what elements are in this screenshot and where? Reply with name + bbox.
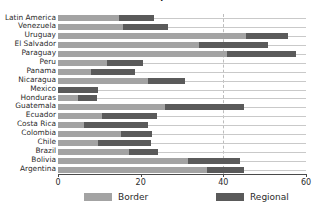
bar-row <box>58 103 306 112</box>
bar-row <box>58 165 306 174</box>
bar-segment-regional <box>227 51 296 57</box>
bar-segment-border <box>58 33 246 39</box>
bar-segment-border <box>58 131 121 137</box>
bar-row <box>58 41 306 50</box>
bar-segment-regional <box>58 87 98 93</box>
bar-row <box>58 14 306 23</box>
bar-segment-border <box>58 167 207 173</box>
bar-segment-border <box>58 113 102 119</box>
legend-label: Border <box>118 192 148 202</box>
bar-segment-regional <box>129 149 158 155</box>
legend-label: Regional <box>250 192 289 202</box>
bar-segment-regional <box>148 78 185 84</box>
bar-segment-border <box>58 122 84 128</box>
x-axis-tick-label: 20 <box>136 178 146 187</box>
plot-area <box>58 14 306 174</box>
bar-segment-regional <box>84 122 148 128</box>
bar-segment-border <box>58 42 199 48</box>
bar-segment-regional <box>119 15 154 21</box>
bar-segment-regional <box>207 167 244 173</box>
x-axis-tick <box>223 174 224 177</box>
bar-row <box>58 85 306 94</box>
x-axis-tick <box>58 174 59 177</box>
bar-segment-border <box>58 24 123 30</box>
x-axis-line <box>58 174 306 175</box>
legend-swatch-icon <box>216 193 244 201</box>
x-axis-tick <box>141 174 142 177</box>
bar-row <box>58 94 306 103</box>
legend-item-regional[interactable]: Regional <box>216 192 289 202</box>
bar-row <box>58 67 306 76</box>
bar-segment-regional <box>98 140 151 146</box>
bar-segment-border <box>58 78 148 84</box>
bar-segment-regional <box>78 95 97 101</box>
chart-title: of Exports <box>0 0 322 1</box>
bar-row <box>58 130 306 139</box>
bar-segment-regional <box>188 158 240 164</box>
bar-segment-border <box>58 158 188 164</box>
bar-segment-regional <box>246 33 288 39</box>
bar-segment-border <box>58 51 227 57</box>
bar-segment-border <box>58 69 91 75</box>
bar-segment-regional <box>102 113 157 119</box>
bar-segment-border <box>58 95 78 101</box>
x-axis-tick-label: 0 <box>55 178 60 187</box>
stacked-bar-chart: of Exports 0204060 Latin AmericaVenezuel… <box>0 0 322 212</box>
bar-segment-border <box>58 15 119 21</box>
bar-segment-border <box>58 60 107 66</box>
x-axis-tick-label: 40 <box>218 178 228 187</box>
bar-segment-regional <box>121 131 152 137</box>
y-axis-label: Argentina <box>20 165 56 174</box>
legend-swatch-icon <box>84 193 112 201</box>
bar-segment-regional <box>199 42 268 48</box>
bar-row <box>58 138 306 147</box>
bar-segment-regional <box>107 60 143 66</box>
bar-segment-regional <box>165 104 244 110</box>
bar-row <box>58 112 306 121</box>
bar-row <box>58 32 306 41</box>
bar-row <box>58 50 306 59</box>
x-axis-tick-label: 60 <box>301 178 311 187</box>
bar-segment-border <box>58 104 165 110</box>
bar-segment-regional <box>123 24 168 30</box>
bar-row <box>58 121 306 130</box>
bar-row <box>58 23 306 32</box>
bar-row <box>58 156 306 165</box>
chart-legend: BorderRegional <box>0 192 322 208</box>
bar-segment-border <box>58 140 98 146</box>
x-axis-tick <box>306 174 307 177</box>
bar-segment-regional <box>91 69 135 75</box>
legend-item-border[interactable]: Border <box>84 192 148 202</box>
bar-row <box>58 147 306 156</box>
bar-row <box>58 76 306 85</box>
bar-segment-border <box>58 149 129 155</box>
bar-row <box>58 58 306 67</box>
